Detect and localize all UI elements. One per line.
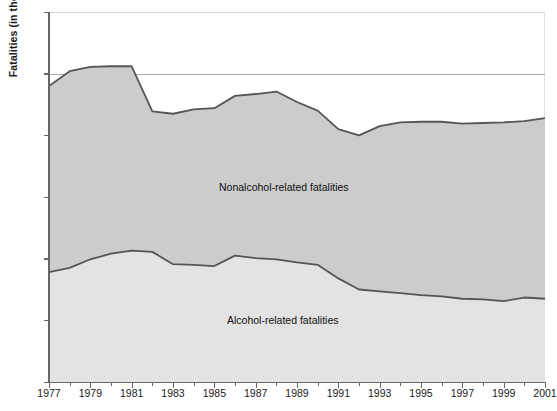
x-tick-label-1989: 1989 — [277, 387, 317, 399]
x-tick-label-1977: 1977 — [29, 387, 69, 399]
annotation-nonalcohol-related: Nonalcohol-related fatalities — [219, 181, 349, 193]
x-tick-label-2001: 2001 — [525, 387, 557, 399]
x-tick-label-1993: 1993 — [360, 387, 400, 399]
series-shapes — [49, 12, 545, 382]
x-tick-label-1999: 1999 — [484, 387, 524, 399]
x-tick-label-1985: 1985 — [194, 387, 234, 399]
y-axis-title-text: Fatalities (in thousands) — [7, 0, 19, 221]
x-axis-line — [48, 382, 546, 384]
x-tick-label-1997: 1997 — [442, 387, 482, 399]
x-tick-label-1987: 1987 — [236, 387, 276, 399]
x-tick-label-1995: 1995 — [401, 387, 441, 399]
x-tick-label-1981: 1981 — [112, 387, 152, 399]
annotation-alcohol-related: Alcohol-related fatalities — [227, 314, 338, 326]
x-tick-label-1983: 1983 — [153, 387, 193, 399]
plot-area: 0102030405060 19771979198119831985198719… — [49, 12, 545, 382]
y-axis-title: Fatalities (in thousands) — [7, 0, 23, 216]
x-tick-label-1979: 1979 — [70, 387, 110, 399]
y-axis-line — [48, 12, 50, 383]
x-tick-label-1991: 1991 — [318, 387, 358, 399]
stacked-area-chart: Fatalities (in thousands) 0102030405060 … — [0, 0, 557, 411]
